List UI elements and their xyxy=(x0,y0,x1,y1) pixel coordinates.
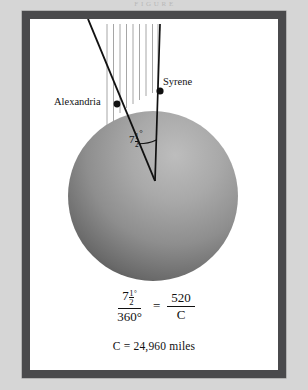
eq-angle-degree-symbol: ° xyxy=(134,289,137,297)
equals-operator: = xyxy=(146,298,167,314)
result-line: C = 24,960 miles xyxy=(22,340,286,352)
angle-ratio-numerator: 712° xyxy=(118,289,141,309)
angle-fraction-denominator: 2 xyxy=(135,142,140,149)
angle-value-label: 712° xyxy=(129,128,143,149)
distance-ratio-numerator: 520 xyxy=(167,291,195,307)
angle-ratio-fraction: 712° 360° xyxy=(113,289,146,324)
equation-row: 712° 360° = 520 C xyxy=(113,289,195,324)
proportion-equation: 712° 360° = 520 C xyxy=(22,286,286,324)
distance-ratio-fraction: 520 C xyxy=(167,291,195,322)
angle-ratio-denominator: 360° xyxy=(113,309,146,324)
syrene-label: Syrene xyxy=(163,76,192,87)
angle-degree-symbol: ° xyxy=(139,128,143,138)
eq-angle-denominator: 2 xyxy=(129,298,134,307)
figure-caption-strip: F I G U R E xyxy=(0,0,308,9)
alexandria-label: Alexandria xyxy=(54,96,101,107)
distance-ratio-denominator: C xyxy=(173,307,190,322)
